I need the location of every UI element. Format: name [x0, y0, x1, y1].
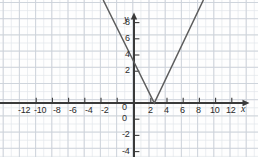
x-tick-label--6: -6 [69, 106, 76, 115]
x-tick-label--12: -12 [18, 106, 30, 115]
x-axis-label: x [241, 104, 245, 114]
x-tick-label--4: -4 [85, 106, 92, 115]
y-tick-label--2: 0 [122, 114, 127, 123]
x-tick-label--10: -10 [34, 106, 46, 115]
x-tick-label-0: 0 [122, 103, 127, 112]
x-tick-label-8: 8 [196, 106, 201, 115]
y-tick-label--4: -2 [122, 130, 129, 139]
y-tick-label--6: -4 [122, 147, 129, 156]
y-axis-label: y [124, 14, 128, 24]
y-tick-label-6: 6 [125, 34, 130, 43]
x-tick-label-2: 2 [148, 106, 153, 115]
x-tick-label--8: -8 [53, 106, 60, 115]
coordinate-graph-figure: -12 -10 -8 -6 -4 -2 0 2 4 6 8 10 12 8 6 … [0, 0, 258, 157]
x-tick-label--2: -2 [101, 106, 108, 115]
y-tick-label-4: 4 [125, 50, 130, 59]
x-tick-label-12: 12 [226, 106, 235, 115]
x-tick-label-10: 10 [210, 106, 219, 115]
x-tick-label-4: 4 [164, 106, 169, 115]
y-tick-label-2: 2 [125, 66, 130, 75]
x-tick-label-6: 6 [180, 106, 185, 115]
